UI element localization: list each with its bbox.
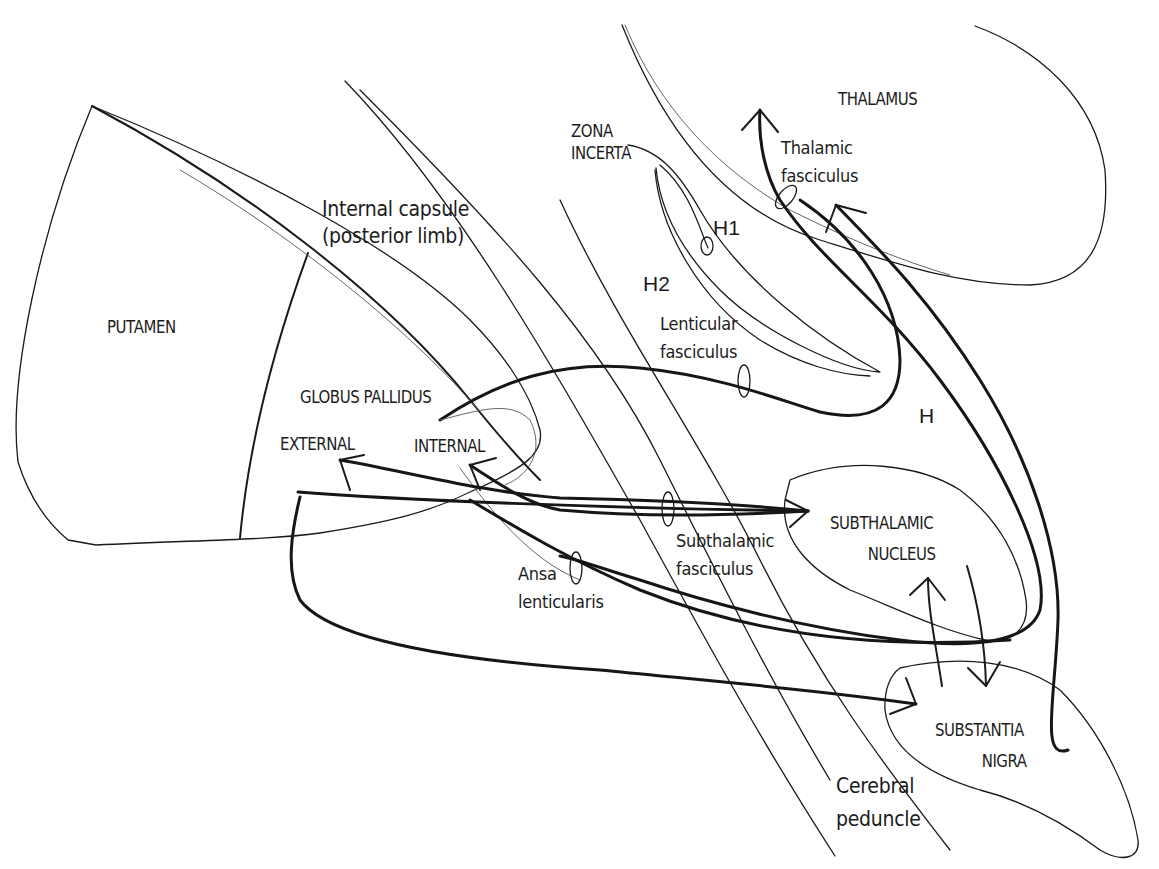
label-zona-incerta-line2: INCERTA xyxy=(571,142,631,164)
label-substantia-nigra-line2: NIGRA xyxy=(935,746,1027,777)
putamen-outline xyxy=(16,106,540,545)
subthalamic-fasciculus-to-external xyxy=(340,460,808,511)
label-subthalamic-nucleus-line1: SUBTHALAMIC xyxy=(830,508,936,539)
label-subthalamic-fasciculus-line2: fasciculus xyxy=(676,555,774,583)
label-internal-capsule: Internal capsule (posterior limb) xyxy=(322,196,469,251)
h1-tract xyxy=(660,165,708,248)
thalamic-fasciculus xyxy=(560,110,1041,644)
striatonigral-tract xyxy=(291,497,916,704)
label-h1: H1 xyxy=(713,214,740,241)
putamen-gp-border xyxy=(240,253,308,538)
gp-external-arrow-head xyxy=(340,455,364,490)
label-zona-incerta-line1: ZONA xyxy=(571,120,631,142)
label-subthalamic-fasciculus-line1: Subthalamic xyxy=(676,527,774,555)
sn-down-arrow-head xyxy=(968,662,1000,686)
thalamus-outline xyxy=(622,25,1106,285)
label-ansa-lenticularis-line1: Ansa xyxy=(518,560,604,588)
label-gp-external: EXTERNAL xyxy=(280,433,355,455)
stn-to-sn xyxy=(967,566,986,686)
label-substantia-nigra: SUBSTANTIA NIGRA xyxy=(935,715,1027,776)
label-thalamic-fasciculus-line2: fasciculus xyxy=(781,162,858,190)
label-zona-incerta: ZONA INCERTA xyxy=(571,120,631,164)
label-putamen: PUTAMEN xyxy=(107,316,176,338)
label-h: H xyxy=(919,402,934,429)
label-h2: H2 xyxy=(643,270,670,297)
label-internal-capsule-line2: (posterior limb) xyxy=(322,223,469,250)
label-subthalamic-nucleus: SUBTHALAMIC NUCLEUS xyxy=(830,508,936,569)
label-globus-pallidus: GLOBUS PALLIDUS xyxy=(300,386,431,408)
label-cerebral-peduncle: Cerebral peduncle xyxy=(836,770,921,835)
label-gp-internal: INTERNAL xyxy=(414,435,485,457)
label-thalamus: THALAMUS xyxy=(838,88,917,110)
label-ansa-lenticularis-line2: lenticularis xyxy=(518,588,604,616)
label-cerebral-peduncle-line1: Cerebral xyxy=(836,770,921,803)
label-subthalamic-fasciculus: Subthalamic fasciculus xyxy=(676,527,774,583)
label-subthalamic-nucleus-line2: NUCLEUS xyxy=(830,539,936,570)
sn-arrow-head xyxy=(890,678,916,714)
label-lenticular-fasciculus-line2: fasciculus xyxy=(660,338,737,366)
label-internal-capsule-line1: Internal capsule xyxy=(322,196,469,223)
nigrothalamic-tract xyxy=(836,205,1068,751)
internal-capsule-edge-left xyxy=(92,106,540,480)
label-lenticular-fasciculus-line1: Lenticular xyxy=(660,310,737,338)
label-thalamic-fasciculus: Thalamic fasciculus xyxy=(781,134,858,190)
label-thalamic-fasciculus-line1: Thalamic xyxy=(781,134,858,162)
label-lenticular-fasciculus: Lenticular fasciculus xyxy=(660,310,737,366)
label-cerebral-peduncle-line2: peduncle xyxy=(836,803,921,836)
lenticular-fasciculus-marker xyxy=(738,365,750,397)
label-substantia-nigra-line1: SUBSTANTIA xyxy=(935,715,1027,746)
label-ansa-lenticularis: Ansa lenticularis xyxy=(518,560,604,616)
